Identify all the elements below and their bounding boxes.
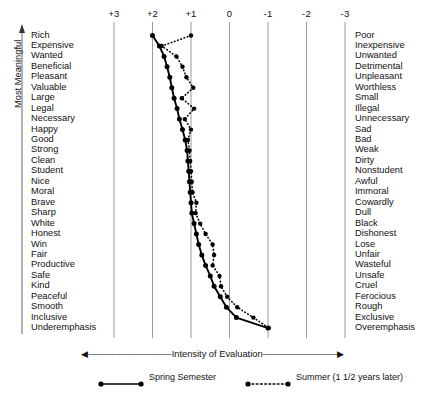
data-point-1-26 bbox=[235, 305, 239, 309]
data-point-1-27 bbox=[251, 315, 255, 319]
data-point-0-6 bbox=[172, 96, 177, 101]
legend-label-spring: Spring Semester bbox=[149, 372, 216, 382]
data-point-1-18 bbox=[198, 221, 202, 225]
data-point-1-9 bbox=[189, 127, 193, 131]
legend-swatch-dotted bbox=[244, 378, 292, 390]
data-point-0-27 bbox=[234, 315, 239, 320]
x-axis-caption-text: Intensity of Evaluation bbox=[172, 349, 263, 359]
data-point-1-15 bbox=[190, 190, 194, 194]
data-point-1-16 bbox=[194, 201, 198, 205]
data-point-0-9 bbox=[180, 127, 185, 132]
data-point-1-12 bbox=[188, 159, 192, 163]
data-point-0-5 bbox=[169, 85, 174, 90]
data-point-0-19 bbox=[194, 232, 199, 237]
x-axis-caption: ◀—————————Intensity of Evaluation———————… bbox=[0, 348, 425, 359]
plot-area bbox=[0, 0, 425, 394]
legend-swatch-solid bbox=[97, 378, 145, 390]
x-axis-arrow-left: ◀————————— bbox=[81, 349, 172, 359]
x-axis-arrow-right: ————————▶ bbox=[263, 349, 344, 359]
data-point-1-1 bbox=[160, 44, 164, 48]
data-point-0-20 bbox=[196, 242, 201, 247]
data-point-1-4 bbox=[184, 75, 188, 79]
data-point-1-8 bbox=[183, 117, 187, 121]
semantic-differential-chart: Most Meaningful +3+2+10-1-2-3 RichExpens… bbox=[0, 0, 425, 394]
data-point-0-8 bbox=[177, 117, 182, 122]
y-axis-arrow-icon bbox=[19, 24, 25, 33]
legend-label-summer: Summer (1 1/2 years later) bbox=[296, 372, 403, 382]
data-point-0-4 bbox=[167, 75, 172, 80]
data-point-1-7 bbox=[192, 106, 196, 110]
data-point-0-21 bbox=[199, 252, 204, 257]
data-point-0-24 bbox=[212, 284, 217, 289]
data-point-1-14 bbox=[190, 180, 194, 184]
data-point-1-21 bbox=[212, 253, 216, 257]
data-point-1-13 bbox=[189, 169, 193, 173]
data-point-0-7 bbox=[175, 106, 180, 111]
data-point-0-3 bbox=[165, 64, 170, 69]
data-point-1-3 bbox=[180, 65, 184, 69]
data-point-1-22 bbox=[210, 263, 214, 267]
data-point-1-25 bbox=[225, 295, 229, 299]
data-point-1-6 bbox=[180, 96, 184, 100]
data-point-0-2 bbox=[162, 54, 167, 59]
data-point-0-16 bbox=[189, 200, 194, 205]
data-point-1-2 bbox=[174, 54, 178, 58]
data-point-1-23 bbox=[217, 274, 221, 278]
data-point-1-5 bbox=[191, 86, 195, 90]
data-point-1-20 bbox=[210, 242, 214, 246]
data-point-1-10 bbox=[186, 138, 190, 142]
data-point-1-19 bbox=[203, 232, 207, 236]
data-point-0-22 bbox=[203, 263, 208, 268]
data-point-0-0 bbox=[150, 33, 155, 38]
data-point-1-28 bbox=[267, 326, 271, 330]
data-point-1-0 bbox=[189, 33, 193, 37]
data-point-0-26 bbox=[224, 305, 229, 310]
data-point-0-25 bbox=[218, 294, 223, 299]
data-point-1-17 bbox=[193, 211, 197, 215]
data-point-0-23 bbox=[208, 273, 213, 278]
data-point-1-11 bbox=[187, 148, 191, 152]
data-point-0-18 bbox=[192, 221, 197, 226]
data-point-1-24 bbox=[219, 284, 223, 288]
